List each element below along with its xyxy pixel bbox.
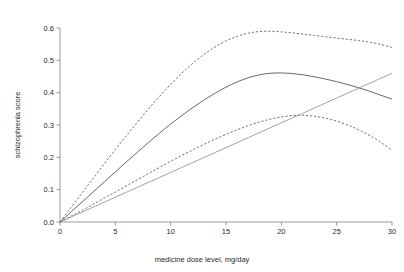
y-tick-label: 0.6 — [44, 24, 54, 33]
x-tick-label: 20 — [277, 227, 285, 236]
chart-figure: 0.00.10.20.30.40.50.6 051015202530 medic… — [0, 0, 404, 272]
y-axis-title: schizophrenia score — [13, 92, 22, 159]
y-tick-label: 0.5 — [44, 56, 54, 65]
y-tick-label: 0.3 — [44, 121, 54, 130]
x-tick-label: 15 — [222, 227, 230, 236]
x-axis-title: medicine dose level, mg/day — [155, 255, 250, 264]
x-tick-label: 25 — [332, 227, 340, 236]
chart-plot-area: 0.00.10.20.30.40.50.6 051015202530 medic… — [0, 0, 404, 272]
x-tick-label: 5 — [113, 227, 117, 236]
y-tick-label: 0.0 — [44, 218, 54, 227]
y-tick-label: 0.1 — [44, 185, 54, 194]
y-tick-label: 0.4 — [44, 88, 54, 97]
x-tick-label: 0 — [58, 227, 62, 236]
x-tick-label: 30 — [388, 227, 396, 236]
x-tick-label: 10 — [166, 227, 174, 236]
y-tick-label: 0.2 — [44, 153, 54, 162]
